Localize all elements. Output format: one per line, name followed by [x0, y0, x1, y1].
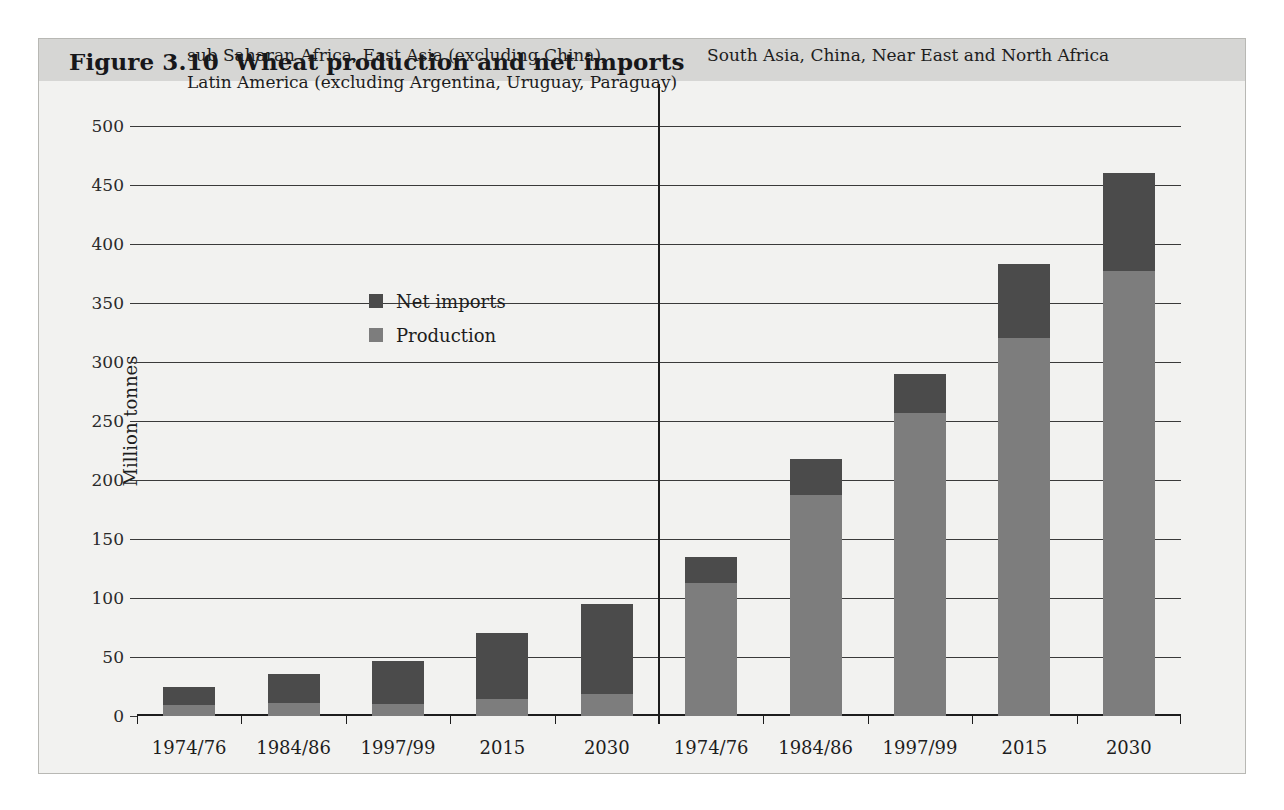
- y-axis-tick: [130, 598, 137, 599]
- panel-caption-1: sub Saharan Africa, East Asia (excluding…: [187, 42, 677, 96]
- bar-segment-net-imports[interactable]: [894, 374, 946, 413]
- y-axis-tick-label: 450: [92, 175, 124, 195]
- bar-segment-net-imports[interactable]: [268, 674, 320, 704]
- y-axis-tick: [130, 480, 137, 481]
- x-axis-tick: [1077, 716, 1078, 724]
- bar-segment-net-imports[interactable]: [790, 459, 842, 496]
- x-axis-tick: [763, 716, 764, 724]
- y-axis-tick: [130, 303, 137, 304]
- x-axis-tick-label: 1974/76: [152, 737, 227, 758]
- x-axis-tick-label: 1997/99: [883, 737, 958, 758]
- x-axis-tick: [450, 716, 451, 724]
- bar-segment-net-imports[interactable]: [476, 633, 528, 699]
- x-axis-tick-label: 1974/76: [674, 737, 749, 758]
- bar-segment-production[interactable]: [685, 583, 737, 716]
- bar-stack[interactable]: [790, 459, 842, 716]
- y-axis-tick-label: 0: [113, 706, 124, 726]
- bar-segment-net-imports[interactable]: [372, 661, 424, 705]
- y-axis-tick: [130, 185, 137, 186]
- x-axis-tick-label: 2015: [1001, 737, 1047, 758]
- panel-caption-line: Latin America (excluding Argentina, Urug…: [187, 69, 677, 96]
- bar-stack[interactable]: [372, 661, 424, 716]
- bar-stack[interactable]: [581, 604, 633, 716]
- bar-stack[interactable]: [894, 374, 946, 716]
- bar-segment-production[interactable]: [1103, 271, 1155, 716]
- bar-segment-production[interactable]: [894, 413, 946, 716]
- bar-stack[interactable]: [476, 633, 528, 716]
- y-axis-tick-label: 300: [92, 352, 124, 372]
- bar-segment-net-imports[interactable]: [1103, 173, 1155, 271]
- y-axis-tick: [130, 657, 137, 658]
- legend-swatch-icon: [369, 328, 383, 342]
- bar-segment-production[interactable]: [581, 694, 633, 716]
- y-axis-tick-label: 500: [92, 116, 124, 136]
- chart-plot-area: Million tonnes 0501001502002503003504004…: [137, 126, 1181, 716]
- bar-segment-production[interactable]: [998, 338, 1050, 716]
- x-axis-tick-label: 2030: [584, 737, 630, 758]
- x-axis-tick-label: 1984/86: [778, 737, 853, 758]
- legend-swatch-icon: [369, 294, 383, 308]
- y-axis-tick-label: 100: [92, 588, 124, 608]
- bar-segment-production[interactable]: [163, 705, 215, 716]
- bar-segment-net-imports[interactable]: [581, 604, 633, 694]
- x-axis-tick: [241, 716, 242, 724]
- x-axis-tick: [1180, 716, 1181, 724]
- panel-caption-line: sub Saharan Africa, East Asia (excluding…: [187, 42, 677, 69]
- x-axis-tick-label: 2030: [1106, 737, 1152, 758]
- y-axis-tick: [130, 421, 137, 422]
- bar-stack[interactable]: [1103, 173, 1155, 716]
- x-axis-tick: [555, 716, 556, 724]
- y-axis-tick: [130, 126, 137, 127]
- y-axis-tick-label: 200: [92, 470, 124, 490]
- legend-item-production: Production: [369, 318, 506, 352]
- legend-label: Net imports: [396, 291, 506, 312]
- y-axis-tick-label: 400: [92, 234, 124, 254]
- panel-divider: [658, 84, 660, 718]
- x-axis-tick: [346, 716, 347, 724]
- y-axis-tick: [130, 362, 137, 363]
- bar-stack[interactable]: [268, 674, 320, 716]
- bar-stack[interactable]: [163, 687, 215, 717]
- bar-segment-net-imports[interactable]: [685, 557, 737, 583]
- x-axis-tick: [972, 716, 973, 724]
- bar-segment-net-imports[interactable]: [163, 687, 215, 706]
- legend-label: Production: [396, 325, 496, 346]
- y-axis-tick: [130, 539, 137, 540]
- y-axis-tick: [130, 716, 137, 717]
- bar-segment-net-imports[interactable]: [998, 264, 1050, 338]
- chart-legend: Net importsProduction: [369, 284, 506, 352]
- x-axis-tick: [137, 716, 138, 724]
- y-axis-tick: [130, 244, 137, 245]
- y-axis-tick-label: 150: [92, 529, 124, 549]
- y-axis-tick-label: 50: [102, 647, 124, 667]
- panel-caption-line: South Asia, China, Near East and North A…: [707, 42, 1109, 69]
- x-axis-tick: [659, 716, 660, 724]
- bar-segment-production[interactable]: [268, 703, 320, 716]
- y-axis-tick-label: 350: [92, 293, 124, 313]
- x-axis-tick-label: 1984/86: [256, 737, 331, 758]
- bar-stack[interactable]: [998, 264, 1050, 716]
- panel-caption-2: South Asia, China, Near East and North A…: [707, 42, 1109, 69]
- legend-item-net_imports: Net imports: [369, 284, 506, 318]
- bar-segment-production[interactable]: [790, 495, 842, 716]
- bar-segment-production[interactable]: [372, 704, 424, 716]
- x-axis-tick: [868, 716, 869, 724]
- bar-stack[interactable]: [685, 557, 737, 716]
- x-axis-tick-label: 2015: [479, 737, 525, 758]
- x-axis-tick-label: 1997/99: [361, 737, 436, 758]
- figure-container: Figure 3.10 Wheat production and net imp…: [38, 38, 1246, 774]
- y-axis-tick-label: 250: [92, 411, 124, 431]
- bar-segment-production[interactable]: [476, 699, 528, 716]
